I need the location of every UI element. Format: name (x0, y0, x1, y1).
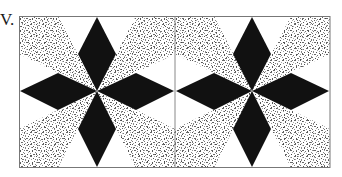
quilt-figure (0, 0, 342, 177)
right-quilt-block (175, 16, 330, 168)
left-quilt-block (19, 16, 175, 168)
